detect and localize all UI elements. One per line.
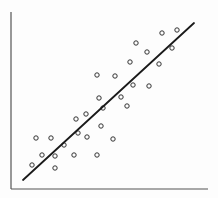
data-point xyxy=(53,166,57,170)
data-point xyxy=(131,83,135,87)
data-point xyxy=(128,60,132,64)
data-point xyxy=(95,73,99,77)
data-point xyxy=(145,50,149,54)
scatter-chart xyxy=(0,0,218,198)
data-point xyxy=(34,136,38,140)
data-point xyxy=(30,163,34,167)
data-point xyxy=(160,31,164,35)
chart-canvas xyxy=(0,0,218,198)
data-point xyxy=(72,153,76,157)
data-point xyxy=(99,124,103,128)
data-point xyxy=(74,117,78,121)
data-point xyxy=(125,104,129,108)
trendline xyxy=(23,23,194,180)
data-point xyxy=(85,135,89,139)
data-points xyxy=(30,28,179,170)
data-point xyxy=(49,136,53,140)
data-point xyxy=(157,62,161,66)
data-point xyxy=(97,96,101,100)
data-point xyxy=(113,74,117,78)
data-point xyxy=(95,153,99,157)
regression-line xyxy=(23,23,194,180)
data-point xyxy=(175,28,179,32)
data-point xyxy=(53,154,57,158)
data-point xyxy=(84,112,88,116)
data-point xyxy=(147,84,151,88)
data-point xyxy=(134,41,138,45)
data-point xyxy=(111,137,115,141)
data-point xyxy=(40,153,44,157)
data-point xyxy=(119,95,123,99)
data-point xyxy=(170,46,174,50)
